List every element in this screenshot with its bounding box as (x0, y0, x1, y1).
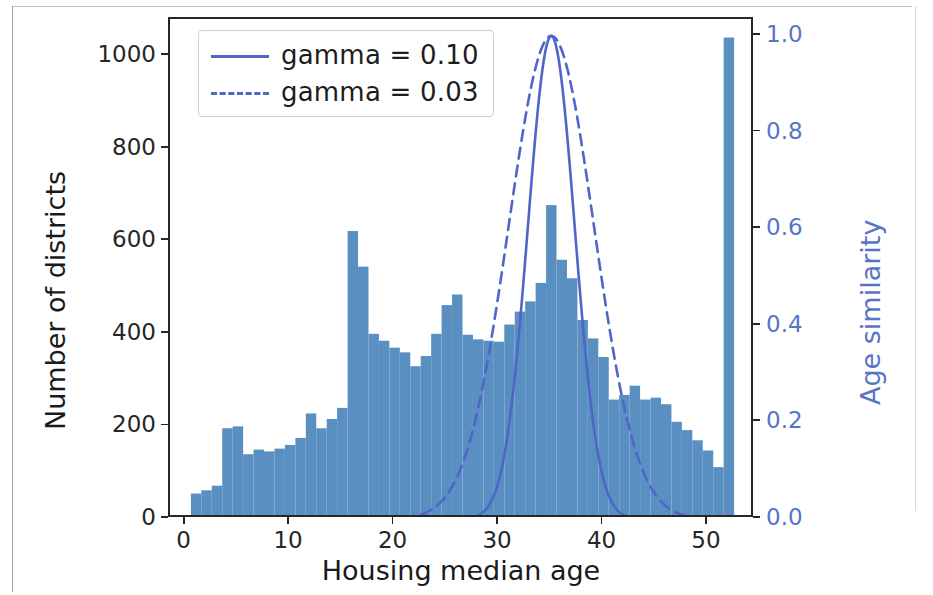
histogram-bar (348, 231, 358, 517)
y-tick-left (161, 516, 168, 518)
histogram-bar (191, 494, 201, 517)
y-ticklabel-left: 400 (112, 320, 156, 343)
histogram-bar (515, 312, 525, 517)
histogram-bar (316, 428, 326, 517)
y-tick-left (161, 331, 168, 333)
histogram-bar (400, 352, 410, 517)
histogram-bar (567, 278, 577, 517)
x-ticklabel: 40 (587, 529, 616, 552)
y-tick-left (161, 146, 168, 148)
x-tick (496, 517, 498, 524)
histogram-bar (389, 348, 399, 517)
legend-entry-gamma-010: gamma = 0.10 (211, 39, 479, 70)
y-tick-left (161, 53, 168, 55)
y-tick-right (753, 323, 760, 325)
y-ticklabel-right: 1.0 (766, 22, 803, 45)
y-ticklabel-right: 0.0 (766, 506, 803, 529)
histogram-bar (619, 395, 629, 517)
histogram-bar (630, 386, 640, 517)
y-tick-right (753, 130, 760, 132)
histogram-bar (692, 440, 702, 517)
histogram-bar (640, 400, 650, 517)
figure-page: 020040060080010000.00.20.40.60.81.001020… (0, 0, 933, 595)
line-dashed-icon (211, 83, 269, 101)
histogram-bar (661, 404, 671, 517)
y-tick-right (753, 419, 760, 421)
y-tick-right (753, 516, 760, 518)
histogram-bar (724, 38, 734, 517)
x-axis-title: Housing median age (322, 555, 600, 586)
x-tick (705, 517, 707, 524)
y-ticklabel-left: 800 (112, 135, 156, 158)
histogram-bar (212, 486, 222, 517)
legend-label-gamma-010: gamma = 0.10 (281, 40, 479, 70)
histogram-bar (410, 366, 420, 517)
legend-label-gamma-003: gamma = 0.03 (281, 77, 479, 107)
histogram-bar (243, 454, 253, 517)
x-tick (392, 517, 394, 524)
histogram-bar (358, 267, 368, 517)
histogram-bar (463, 335, 473, 517)
y-tick-left (161, 424, 168, 426)
histogram-bar (327, 419, 337, 517)
y-ticklabel-left: 200 (112, 413, 156, 436)
histogram-bar (536, 283, 546, 517)
histogram-bar (682, 430, 692, 517)
histogram-bar (233, 426, 243, 517)
histogram-bar (306, 413, 316, 517)
y-ticklabel-right: 0.8 (766, 119, 803, 142)
x-ticklabel: 10 (273, 529, 302, 552)
y-ticklabel-right: 0.2 (766, 409, 803, 432)
histogram-bar (713, 467, 723, 517)
legend-entry-gamma-003: gamma = 0.03 (211, 76, 479, 107)
histogram-bar (421, 356, 431, 517)
y-tick-right (753, 226, 760, 228)
y-axis-title-right: Age similarity (855, 220, 886, 405)
histogram-bar (264, 451, 274, 517)
y-tick-left (161, 238, 168, 240)
x-ticklabel: 50 (691, 529, 720, 552)
y-ticklabel-right: 0.4 (766, 312, 803, 335)
matplotlib-figure: 020040060080010000.00.20.40.60.81.001020… (0, 0, 933, 595)
x-tick (287, 517, 289, 524)
y-ticklabel-left: 1000 (97, 43, 156, 66)
y-axis-title-left: Number of districts (40, 171, 71, 430)
x-tick (601, 517, 603, 524)
y-tick-right (753, 33, 760, 35)
histogram-bar (442, 305, 452, 517)
legend: gamma = 0.10 gamma = 0.03 (198, 30, 494, 117)
histogram-bar (525, 301, 535, 517)
x-ticklabel: 0 (176, 529, 191, 552)
x-tick (183, 517, 185, 524)
line-solid-icon (211, 46, 269, 64)
histogram-bar (295, 438, 305, 517)
histogram-bar (671, 422, 681, 517)
x-ticklabel: 20 (378, 529, 407, 552)
histogram-bar (368, 334, 378, 517)
x-ticklabel: 30 (482, 529, 511, 552)
histogram-bar (274, 449, 284, 517)
histogram-bar (337, 408, 347, 517)
histogram-bar (473, 339, 483, 517)
histogram-bar (483, 341, 493, 517)
histogram-bar (201, 490, 211, 517)
y-ticklabel-right: 0.6 (766, 216, 803, 239)
histogram-bar (651, 398, 661, 517)
y-ticklabel-left: 600 (112, 228, 156, 251)
histogram-bar (222, 428, 232, 517)
histogram-bar (285, 445, 295, 517)
y-ticklabel-left: 0 (141, 506, 156, 529)
histogram-bar (703, 450, 713, 517)
histogram-bar (254, 450, 264, 517)
histogram-bar (557, 260, 567, 517)
histogram-bar (431, 334, 441, 517)
histogram-bar (546, 205, 556, 517)
histogram-bar (379, 341, 389, 517)
